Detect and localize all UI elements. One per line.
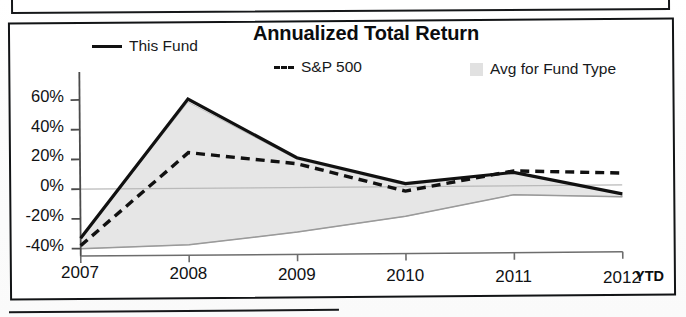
screenshot-root: Annualized Total Return This Fund S&P 50… <box>0 0 686 317</box>
y-tick-label-2: 20% <box>2 146 64 165</box>
x-tick-label-2010: 2010 <box>370 266 440 286</box>
x-tick-label-2011: 2011 <box>479 267 549 287</box>
y-tick-label-5: -40% <box>2 236 64 255</box>
y-tick-label-3: 0% <box>2 176 64 195</box>
x-tick-label-2008: 2008 <box>153 264 223 284</box>
y-tick-label-4: -20% <box>2 206 64 225</box>
y-tick-label-0: 60% <box>2 87 64 106</box>
x-axis-ytd-label: YTD <box>635 268 664 284</box>
y-tick-label-1: 40% <box>2 117 64 136</box>
x-tick-label-2007: 2007 <box>45 263 115 283</box>
x-tick-label-2009: 2009 <box>262 265 332 285</box>
